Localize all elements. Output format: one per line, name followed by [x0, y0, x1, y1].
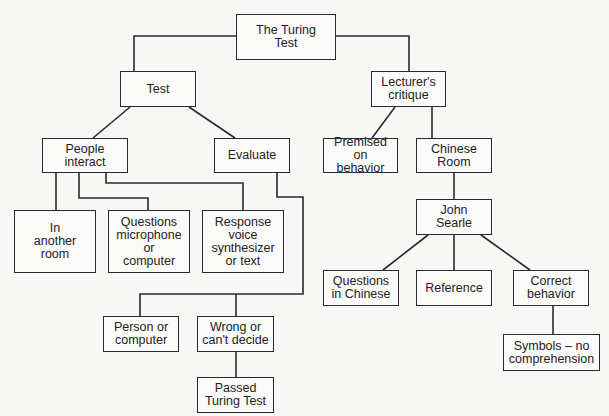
node-people-interact: People interact	[42, 138, 128, 173]
node-premised-on-behavior: Premised on behavior	[323, 138, 398, 173]
turing-test-diagram: The Turing Test Test People interact Eva…	[0, 0, 609, 416]
node-lecturers-critique: Lecturer's critique	[371, 71, 446, 107]
node-wrong-or-cant-decide: Wrong or can't decide	[197, 316, 274, 352]
node-john-searle: John Searle	[416, 199, 492, 235]
edge-test-people	[93, 107, 130, 138]
node-test: Test	[120, 71, 196, 107]
edge-test-evaluate	[189, 107, 235, 138]
node-the-turing-test: The Turing Test	[236, 14, 336, 60]
edge-searle-correct	[481, 235, 530, 270]
node-chinese-room: Chinese Room	[416, 138, 492, 173]
node-evaluate: Evaluate	[214, 138, 290, 173]
edge-root-test	[134, 36, 236, 71]
node-reference: Reference	[416, 270, 492, 306]
node-response-voice: Response voice synthesizer or text	[202, 210, 284, 273]
edge-critique-premised	[372, 107, 395, 138]
edge-people-response	[106, 173, 243, 210]
node-symbols-no-comprehension: Symbols – no comprehension	[503, 334, 600, 371]
node-passed-turing-test: Passed Turing Test	[197, 377, 274, 413]
node-questions-in-chinese: Questions in Chinese	[323, 270, 399, 306]
edge-searle-questions	[383, 235, 428, 270]
node-correct-behavior: Correct behavior	[513, 270, 589, 306]
node-questions-microphone: Questions microphone or computer	[108, 210, 190, 273]
node-in-another-room: In another room	[14, 210, 96, 273]
edge-root-critique	[336, 36, 409, 71]
node-person-or-computer: Person or computer	[103, 316, 179, 352]
edge-people-questions	[79, 173, 148, 210]
